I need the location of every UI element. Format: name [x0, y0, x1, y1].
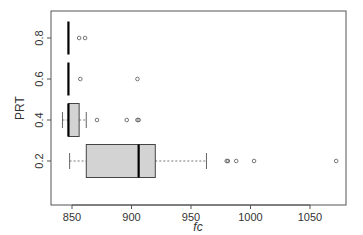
box: [86, 145, 155, 178]
y-tick-label: 0.2: [33, 153, 45, 168]
x-axis-label: fc: [193, 220, 202, 234]
outlier-point: [79, 77, 83, 81]
outlier-point: [125, 118, 129, 122]
outlier-point: [77, 36, 81, 40]
box-group-0.2: [70, 145, 338, 178]
y-axis-label: PRT: [13, 95, 27, 119]
x-tick-label: 900: [122, 211, 140, 223]
y-tick-label: 0.6: [33, 71, 45, 86]
x-tick-label: 850: [63, 211, 81, 223]
outlier-point: [136, 77, 140, 81]
y-axis: 0.20.40.60.8: [33, 30, 51, 168]
box: [68, 104, 79, 137]
outlier-point: [234, 159, 238, 163]
outlier-point: [83, 36, 87, 40]
y-tick-label: 0.4: [33, 112, 45, 127]
x-tick-label: 1000: [238, 211, 262, 223]
box-group-0.6: [68, 63, 139, 96]
box-group-0.8: [68, 22, 86, 55]
outlier-point: [252, 159, 256, 163]
plot-area: [62, 22, 338, 178]
x-tick-label: 1050: [298, 211, 322, 223]
y-tick-label: 0.8: [33, 30, 45, 45]
outlier-point: [334, 159, 338, 163]
box-group-0.4: [62, 104, 140, 137]
outlier-point: [95, 118, 99, 122]
boxplot-chart: 85090095010001050 0.20.40.60.8 fc PRT: [0, 0, 363, 235]
